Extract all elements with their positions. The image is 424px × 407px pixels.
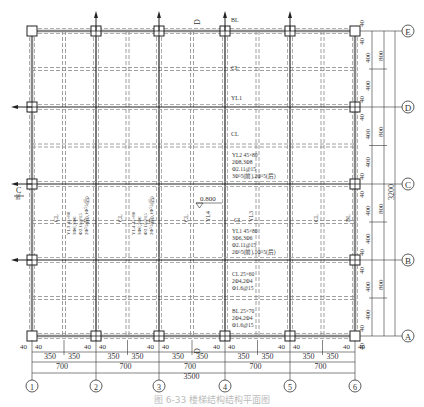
structural-plan: A4040B4040C4040D4040E4040400400800400400… xyxy=(0,0,424,407)
svg-text:400: 400 xyxy=(364,80,372,91)
svg-text:5: 5 xyxy=(288,383,292,392)
svg-text:400: 400 xyxy=(364,205,372,216)
svg-text:0.800: 0.800 xyxy=(200,195,216,203)
svg-text:40: 40 xyxy=(358,38,366,46)
svg-text:40: 40 xyxy=(358,343,366,351)
svg-text:CL 25×60: CL 25×60 xyxy=(232,271,255,277)
svg-text:700: 700 xyxy=(120,362,132,371)
svg-text:40: 40 xyxy=(343,343,351,351)
svg-text:40: 40 xyxy=(358,191,366,199)
svg-text:Φ2.11@15: Φ2.11@15 xyxy=(78,213,83,235)
svg-text:1: 1 xyxy=(30,383,34,392)
svg-text:40: 40 xyxy=(84,343,92,351)
svg-text:350: 350 xyxy=(172,352,184,361)
svg-text:350: 350 xyxy=(132,352,144,361)
svg-text:BL: BL xyxy=(345,214,351,222)
svg-text:350: 350 xyxy=(327,352,339,361)
svg-text:400: 400 xyxy=(364,129,372,140)
svg-text:BL 25×70: BL 25×70 xyxy=(232,308,255,314)
svg-text:4: 4 xyxy=(223,383,227,392)
svg-text:2Φ8,3Φ8: 2Φ8,3Φ8 xyxy=(232,159,253,165)
svg-text:400: 400 xyxy=(364,157,372,168)
svg-text:350: 350 xyxy=(303,352,315,361)
svg-text:800: 800 xyxy=(377,203,385,214)
svg-text:BL: BL xyxy=(231,17,239,23)
figure-caption: 图 6-33 楼梯结构结构平面图 xyxy=(0,393,424,406)
svg-text:2Φ4,2Φ4: 2Φ4,2Φ4 xyxy=(232,278,253,284)
svg-text:700: 700 xyxy=(315,362,327,371)
svg-text:350: 350 xyxy=(108,352,120,361)
svg-text:700: 700 xyxy=(56,362,68,371)
svg-text:350: 350 xyxy=(68,352,80,361)
svg-text:3: 3 xyxy=(157,383,161,392)
svg-text:B: B xyxy=(405,256,411,266)
svg-text:D: D xyxy=(193,19,202,25)
svg-text:40: 40 xyxy=(358,20,366,28)
svg-text:CL: CL xyxy=(231,65,239,71)
svg-text:40: 40 xyxy=(147,343,155,351)
svg-text:2Φ4,2Φ4: 2Φ4,2Φ4 xyxy=(232,315,253,321)
svg-text:400: 400 xyxy=(364,309,372,320)
svg-text:A: A xyxy=(405,332,412,342)
svg-text:40: 40 xyxy=(162,343,170,351)
svg-text:YL1 45×80: YL1 45×80 xyxy=(232,228,258,234)
svg-text:40: 40 xyxy=(20,343,28,351)
svg-text:CL: CL xyxy=(313,214,319,222)
svg-text:YL4 45×80: YL4 45×80 xyxy=(131,211,136,235)
svg-text:350: 350 xyxy=(44,352,56,361)
svg-text:400: 400 xyxy=(364,281,372,292)
svg-text:700: 700 xyxy=(250,362,262,371)
svg-text:D: D xyxy=(193,348,202,354)
svg-text:700: 700 xyxy=(184,362,196,371)
svg-text:2Φ⁵5(前),1Φ⁵5(后): 2Φ⁵5(前),1Φ⁵5(后) xyxy=(83,196,90,235)
svg-text:2Φ⁵5(前),1Φ⁵5(后): 2Φ⁵5(前),1Φ⁵5(后) xyxy=(148,196,155,235)
svg-text:3200: 3200 xyxy=(387,184,396,200)
svg-text:40: 40 xyxy=(293,343,301,351)
svg-text:Φ1.6@15: Φ1.6@15 xyxy=(232,322,254,328)
svg-text:CL: CL xyxy=(234,217,242,223)
svg-text:40: 40 xyxy=(278,343,286,351)
svg-text:40: 40 xyxy=(228,343,236,351)
svg-text:YL3 45×80: YL3 45×80 xyxy=(66,211,71,235)
svg-text:YL1: YL1 xyxy=(231,95,242,101)
svg-text:Φ2.11@15: Φ2.11@15 xyxy=(143,213,148,235)
svg-text:350: 350 xyxy=(238,352,250,361)
svg-text:40: 40 xyxy=(358,114,366,122)
svg-text:40: 40 xyxy=(213,343,221,351)
svg-text:350: 350 xyxy=(262,352,274,361)
svg-text:800: 800 xyxy=(377,50,385,61)
svg-text:CL: CL xyxy=(53,214,59,222)
svg-text:3500: 3500 xyxy=(184,372,200,381)
svg-text:6: 6 xyxy=(353,383,357,392)
svg-text:2: 2 xyxy=(94,383,98,392)
svg-text:3Φ6,3Φ6: 3Φ6,3Φ6 xyxy=(232,235,253,241)
svg-text:40: 40 xyxy=(358,173,366,181)
grid-lines xyxy=(11,11,360,341)
svg-text:Φ2.11@15: Φ2.11@15 xyxy=(232,242,256,248)
svg-text:CL: CL xyxy=(183,214,189,222)
svg-text:40: 40 xyxy=(35,343,43,351)
svg-text:C: C xyxy=(16,186,21,195)
svg-text:40: 40 xyxy=(358,249,366,257)
svg-text:40: 40 xyxy=(358,267,366,275)
svg-text:800: 800 xyxy=(377,126,385,137)
svg-text:CL: CL xyxy=(117,214,123,222)
svg-text:C: C xyxy=(405,180,411,190)
svg-text:400: 400 xyxy=(364,233,372,244)
svg-text:Φ1.6@15: Φ1.6@15 xyxy=(232,285,254,291)
svg-text:40: 40 xyxy=(99,343,107,351)
svg-text:CL: CL xyxy=(231,131,239,137)
svg-text:3Φ⁵5(前),2Φ⁵5(后): 3Φ⁵5(前),2Φ⁵5(后) xyxy=(232,172,276,180)
svg-text:Φ2.11@15: Φ2.11@15 xyxy=(232,166,256,172)
svg-text:YL2 45×80: YL2 45×80 xyxy=(232,152,258,158)
svg-text:40: 40 xyxy=(358,325,366,333)
svg-text:D: D xyxy=(405,103,412,113)
svg-text:40: 40 xyxy=(358,96,366,104)
svg-text:2Φ⁵5(前),1Φ⁵5(后): 2Φ⁵5(前),1Φ⁵5(后) xyxy=(232,248,276,256)
svg-text:400: 400 xyxy=(364,52,372,63)
svg-text:E: E xyxy=(405,27,411,37)
svg-text:800: 800 xyxy=(377,279,385,290)
svg-text:YL4: YL4 xyxy=(205,211,211,222)
svg-text:YL3: YL3 xyxy=(248,211,254,222)
